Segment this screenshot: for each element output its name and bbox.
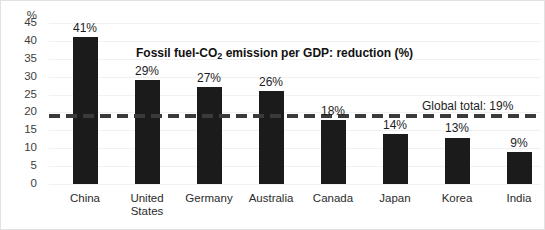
chart-title-text-before: Fossil fuel-CO	[136, 46, 217, 60]
y-axis-tick-label: 15	[24, 124, 37, 136]
x-axis-category-label: Korea	[426, 192, 488, 205]
chart-title: Fossil fuel-CO2 emission per GDP: reduct…	[136, 47, 413, 59]
chart-title-subscript: 2	[217, 51, 222, 61]
x-axis-category-label: Australia	[240, 192, 302, 205]
chart-figure: % 454035302520151050 Global total: 19% F…	[0, 0, 545, 230]
global-total-label: Global total: 19%	[422, 100, 513, 112]
x-axis-category-label: United States	[116, 192, 178, 218]
bar-value-label: 13%	[426, 122, 488, 134]
bar-value-label: 41%	[54, 22, 116, 34]
y-axis-tick-label: 10	[24, 142, 37, 154]
bar[interactable]	[135, 80, 160, 184]
chart-title-text-after: emission per GDP: reduction (%)	[222, 46, 413, 60]
x-axis-category-label: Japan	[364, 192, 426, 205]
y-axis-tick-label: 45	[24, 17, 37, 29]
y-axis-tick-label: 25	[24, 89, 37, 101]
bar[interactable]	[321, 120, 346, 184]
bar-value-label: 26%	[240, 76, 302, 88]
x-axis-category-label: China	[54, 192, 116, 205]
x-axis-category-label: India	[488, 192, 545, 205]
bar-value-label: 14%	[364, 119, 426, 131]
y-axis-tick-label: 5	[31, 160, 37, 172]
bar-value-label: 27%	[178, 72, 240, 84]
bar[interactable]	[445, 138, 470, 185]
bar[interactable]	[73, 37, 98, 184]
y-axis-tick-label: 20	[24, 106, 37, 118]
bar-value-label: 29%	[116, 65, 178, 77]
bar-value-label: 9%	[488, 137, 545, 149]
bar[interactable]	[383, 134, 408, 184]
gridline	[49, 184, 541, 185]
bar-slot	[54, 23, 116, 184]
bar[interactable]	[507, 152, 532, 184]
bar-value-label: 18%	[302, 105, 364, 117]
global-total-line	[49, 114, 541, 118]
bar[interactable]	[259, 91, 284, 184]
y-axis-tick-label: 0	[31, 178, 37, 190]
x-axis-category-label: Germany	[178, 192, 240, 205]
y-axis-tick-label: 30	[24, 71, 37, 83]
x-axis-category-label: Canada	[302, 192, 364, 205]
bar[interactable]	[197, 87, 222, 184]
y-axis: % 454035302520151050	[1, 1, 45, 230]
y-axis-tick-label: 40	[24, 35, 37, 47]
y-axis-tick-label: 35	[24, 53, 37, 65]
